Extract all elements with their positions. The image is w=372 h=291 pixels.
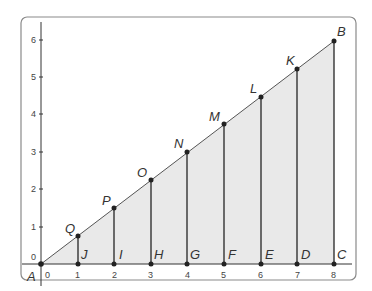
- x-tick-label: 7: [295, 270, 300, 280]
- point-Q: [76, 234, 81, 239]
- label-C: C: [337, 247, 347, 262]
- label-B: B: [337, 24, 346, 39]
- label-F: F: [228, 247, 237, 262]
- point-H: [149, 262, 154, 267]
- point-P: [112, 206, 117, 211]
- label-A: A: [26, 269, 36, 284]
- point-D: [295, 262, 300, 267]
- label-N: N: [174, 136, 184, 151]
- y-tick-label: 6: [31, 35, 36, 45]
- point-E: [259, 262, 264, 267]
- point-J: [76, 262, 81, 267]
- point-M: [222, 122, 227, 127]
- point-A: [38, 261, 44, 267]
- x-tick-label: 3: [148, 270, 153, 280]
- point-N: [185, 150, 190, 155]
- label-H: H: [154, 247, 164, 262]
- x-tick-label: 2: [112, 270, 117, 280]
- y-tick-label: 5: [31, 72, 36, 82]
- diagram-canvas: 6 5 4 3 2 1 0 0 1 2 3 4 5 6 7 8: [0, 0, 372, 291]
- point-K: [295, 67, 300, 72]
- label-P: P: [102, 193, 111, 208]
- y-tick-label: 2: [31, 184, 36, 194]
- label-E: E: [265, 247, 274, 262]
- point-F: [222, 262, 227, 267]
- x-tick-label: 4: [185, 270, 190, 280]
- label-I: I: [119, 247, 123, 262]
- label-M: M: [209, 109, 220, 124]
- label-Q: Q: [65, 221, 75, 236]
- x-tick-label: 0: [45, 270, 50, 280]
- label-K: K: [286, 53, 296, 68]
- y-tick-label: 4: [31, 109, 36, 119]
- point-L: [259, 95, 264, 100]
- point-G: [185, 262, 190, 267]
- x-tick-label: 8: [331, 270, 336, 280]
- point-I: [112, 262, 117, 267]
- point-B: [332, 39, 337, 44]
- x-tick-label: 1: [75, 270, 80, 280]
- label-D: D: [301, 247, 310, 262]
- point-C: [332, 262, 337, 267]
- y-tick-label: 3: [31, 147, 36, 157]
- x-tick-label: 5: [221, 270, 226, 280]
- x-tick-label: 6: [258, 270, 263, 280]
- y-tick-label: 1: [31, 222, 36, 232]
- label-L: L: [250, 81, 257, 96]
- label-G: G: [190, 247, 200, 262]
- y-tick-label: 0: [31, 252, 36, 262]
- label-J: J: [80, 247, 88, 262]
- point-O: [149, 178, 154, 183]
- label-O: O: [137, 165, 147, 180]
